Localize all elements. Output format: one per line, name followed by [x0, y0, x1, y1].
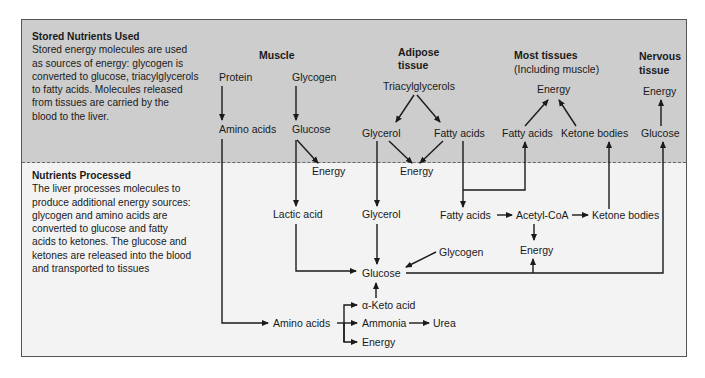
- arrow-fatty-most-to-energy: [525, 100, 548, 126]
- arrow-lactic-to-glucose: [296, 224, 356, 271]
- node-glucose-nervous: Glucose: [641, 127, 680, 139]
- tissue-heading-nervous: Nervous: [639, 50, 681, 62]
- node-glycerol-adipose: Glycerol: [362, 127, 401, 139]
- tissue-heading-muscle: Muscle: [259, 49, 295, 61]
- tissue-heading-most: Most tissues: [514, 49, 578, 61]
- arrow-glucose-to-energy: [297, 140, 318, 163]
- node-fatty-acids-most: Fatty acids: [502, 127, 553, 139]
- tissue-heading-adipose: Adipose: [398, 46, 440, 58]
- arrow-amino-to-liver: [222, 139, 268, 323]
- node-energy-adipose: Energy: [400, 165, 434, 177]
- arrow-ketone-most-to-energy: [559, 100, 576, 126]
- node-ketone-bodies-liver: Ketone bodies: [592, 209, 659, 221]
- node-energy-liver-acetyl: Energy: [520, 244, 554, 256]
- arrow-amino-to-energy: [344, 323, 357, 342]
- node-glycogen-muscle: Glycogen: [292, 71, 337, 83]
- node-protein: Protein: [219, 71, 252, 83]
- node-fatty-acids-adipose: Fatty acids: [434, 127, 485, 139]
- node-energy-liver-amino: Energy: [362, 336, 396, 348]
- pathway-diagram: Muscle Adipose tissue Most tissues (Incl…: [0, 0, 705, 378]
- arrow-tag-to-glycerol: [396, 95, 414, 122]
- node-energy-most: Energy: [537, 83, 571, 95]
- arrow-fatty-to-energy: [420, 141, 443, 163]
- arrow-fatty-to-most: [463, 142, 525, 190]
- node-urea: Urea: [433, 317, 456, 329]
- tissue-heading-nervous-2: tissue: [639, 64, 670, 76]
- node-ammonia: Ammonia: [362, 317, 407, 329]
- node-glucose-muscle: Glucose: [292, 123, 331, 135]
- node-triacylglycerols: Triacylglycerols: [383, 80, 455, 92]
- node-acetyl-coa: Acetyl-CoA: [516, 209, 569, 221]
- node-energy-muscle: Energy: [312, 165, 346, 177]
- tissue-heading-most-sub: (Including muscle): [514, 63, 599, 75]
- node-amino-acids-muscle: Amino acids: [219, 123, 276, 135]
- arrow-tag-to-fatty: [417, 95, 440, 122]
- node-fatty-acids-liver: Fatty acids: [440, 209, 491, 221]
- arrow-glycerol-to-energy: [389, 141, 412, 163]
- node-glucose-liver: Glucose: [362, 267, 401, 279]
- node-energy-nervous: Energy: [643, 85, 677, 97]
- node-ketone-bodies-most: Ketone bodies: [561, 127, 628, 139]
- node-amino-acids-liver: Amino acids: [273, 317, 330, 329]
- tissue-heading-adipose-2: tissue: [398, 59, 429, 71]
- node-glycerol-liver: Glycerol: [362, 208, 401, 220]
- node-lactic-acid: Lactic acid: [273, 208, 323, 220]
- arrow-glycogen-to-glucose-liver: [406, 252, 436, 267]
- node-glycogen-liver: Glycogen: [439, 246, 484, 258]
- node-alpha-keto-acid: α-Keto acid: [362, 299, 416, 311]
